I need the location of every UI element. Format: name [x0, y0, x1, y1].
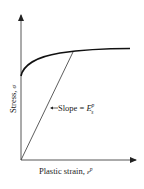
svg-text:Slope = Eps: Slope = Eps — [58, 102, 95, 115]
x-axis-label-group: Plastic strain, εp — [39, 166, 93, 177]
slope-label: Slope = — [58, 103, 86, 113]
diagram-canvas: Slope = Eps Plastic strain, εp Stress, σ — [0, 0, 144, 189]
slope-superscript: p — [91, 102, 95, 108]
annotation-arrowhead — [50, 107, 53, 110]
slope-subscript: s — [91, 109, 93, 115]
stress-strain-curve — [21, 49, 130, 77]
y-axis-label-group: Stress, σ — [8, 84, 18, 113]
y-axis-symbol: σ — [10, 84, 18, 88]
slope-annotation: Slope = Eps — [50, 102, 95, 115]
x-axis-label: Plastic strain, — [39, 166, 87, 176]
x-axis-superscript: p — [89, 166, 93, 172]
y-axis-label: Stress, — [8, 88, 18, 113]
